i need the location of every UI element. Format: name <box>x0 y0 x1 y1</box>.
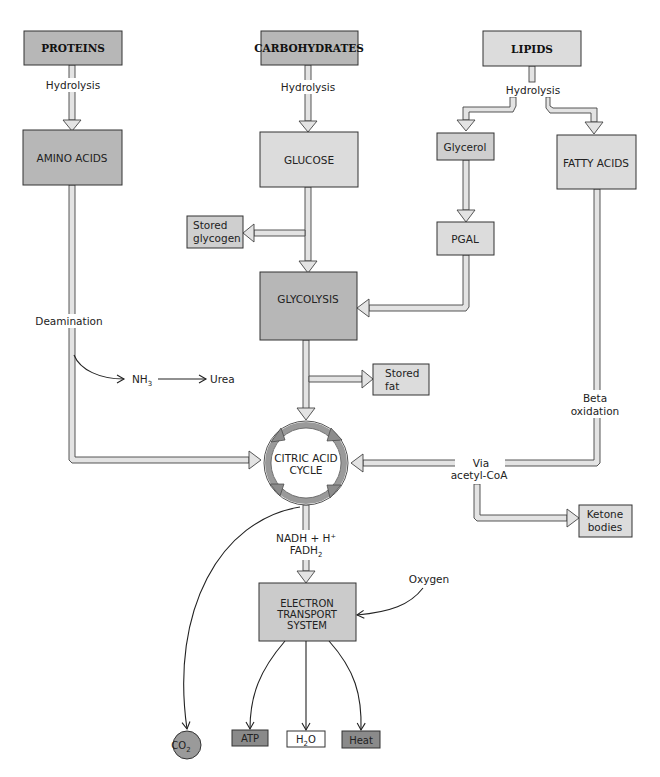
pipe-glucose-glycolysis <box>305 187 311 261</box>
label-nadh: NADH + H⁺ <box>276 532 336 544</box>
pipe-glycolysis-fat <box>309 376 362 382</box>
pipe-lipids-stem <box>529 66 535 82</box>
pipe-lipids-glycerol <box>463 97 516 120</box>
pipe-proteins-amino <box>69 65 75 120</box>
label-stored-glycogen-1: Stored <box>193 219 227 231</box>
arrowhead-ketone <box>567 509 579 527</box>
pipe-glycerol-pgal <box>463 160 469 210</box>
label-pgal: PGAL <box>451 233 479 245</box>
label-citric-2: CYCLE <box>290 464 323 476</box>
label-beta-1: Beta <box>583 392 607 404</box>
arrowhead-glycolysis-right <box>357 299 369 317</box>
arrowhead-glycerol <box>457 120 475 131</box>
label-ets-2: TRANSPORT <box>276 609 337 620</box>
label-heat: Heat <box>349 735 373 746</box>
arrow-ets-atp <box>250 641 285 729</box>
metabolism-diagram: PROTEINS CARBOHYDRATES LIPIDS AMINO ACID… <box>0 0 660 777</box>
label-via-2: acetyl-CoA <box>451 469 508 481</box>
label-ets-3: SYSTEM <box>287 620 327 631</box>
label-ets-1: ELECTRON <box>280 598 334 609</box>
arrowhead-citric-top <box>297 408 315 420</box>
arrow-deamination-nh3 <box>74 355 124 379</box>
arrowhead-fatty <box>585 122 603 134</box>
pipe-pgal-glycolysis <box>369 255 469 311</box>
label-ketone-1: Ketone <box>587 508 623 520</box>
label-stored-fat-2: fat <box>385 380 399 392</box>
label-beta-2: oxidation <box>571 405 619 417</box>
label-oxygen: Oxygen <box>409 573 449 585</box>
arrow-ets-heat <box>329 641 361 730</box>
arrowhead-ets <box>297 571 315 583</box>
label-amino-acids: AMINO ACIDS <box>37 152 108 164</box>
arrowhead-fat <box>362 370 373 388</box>
label-hydrolysis-lipids: Hydrolysis <box>506 84 560 96</box>
label-deamination: Deamination <box>35 315 102 327</box>
arrowhead-pgal <box>457 210 475 222</box>
pipe-acetyl-ketone <box>474 484 567 521</box>
pipe-glucose-glycogen <box>254 230 305 236</box>
arrowhead-glucose <box>299 121 317 132</box>
arrowhead-citric-right <box>351 454 363 472</box>
label-stored-glycogen-2: glycogen <box>193 232 241 244</box>
label-nh3: NH3 <box>132 373 152 388</box>
label-glucose: GLUCOSE <box>284 154 334 166</box>
label-fatty-acids: FATTY ACIDS <box>563 157 629 169</box>
label-hydrolysis-proteins: Hydrolysis <box>46 79 100 91</box>
label-atp: ATP <box>241 733 259 744</box>
label-glycolysis: GLYCOLYSIS <box>277 293 339 305</box>
label-glycerol: Glycerol <box>444 141 487 153</box>
arrowhead-citric-left <box>249 451 261 469</box>
arrow-oxygen-ets <box>357 588 423 615</box>
pipe-lipids-fatty <box>546 97 597 122</box>
arrowhead-amino <box>63 120 81 131</box>
pipe-glycolysis-citric <box>303 340 309 409</box>
label-ketone-2: bodies <box>588 521 623 533</box>
box-glycolysis <box>260 272 357 340</box>
label-citric-1: CITRIC ACID <box>274 452 337 464</box>
label-proteins: PROTEINS <box>41 42 105 54</box>
label-carbohydrates: CARBOHYDRATES <box>254 42 364 54</box>
label-via-1: Via <box>473 457 489 469</box>
thin-arrows <box>74 355 423 730</box>
arrowhead-glycolysis-top <box>299 261 317 273</box>
label-hydrolysis-carbs: Hydrolysis <box>281 81 335 93</box>
boxes <box>23 31 636 759</box>
arrowhead-glycogen <box>243 224 254 242</box>
label-lipids: LIPIDS <box>511 43 553 55</box>
label-urea: Urea <box>210 373 235 385</box>
label-stored-fat-1: Stored <box>385 367 419 379</box>
